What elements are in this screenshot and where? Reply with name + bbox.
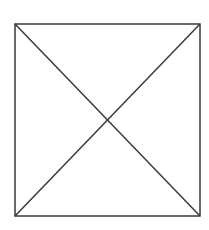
diagram-canvas bbox=[0, 0, 209, 230]
diagram-background bbox=[0, 0, 209, 230]
